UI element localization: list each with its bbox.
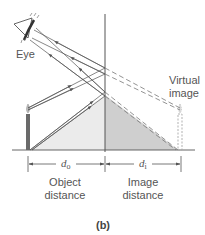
- image-distance-symbol: di: [139, 157, 148, 171]
- virtual-image-label-line2: image: [169, 87, 199, 99]
- virtual-image-label-line1: Virtual: [169, 74, 200, 86]
- object-candle: [26, 104, 30, 150]
- image-triangle: [105, 95, 178, 150]
- image-distance-label-line2: distance: [123, 189, 164, 201]
- dimension-lines: [28, 156, 181, 172]
- image-distance-label-line1: Image: [128, 176, 159, 188]
- object-triangle: [30, 95, 105, 150]
- virtual-image-candle: [178, 104, 182, 150]
- object-distance-symbol: do: [61, 157, 71, 171]
- object-distance-label-line1: Object: [49, 176, 81, 188]
- figure-caption: (b): [96, 219, 110, 231]
- reflected-rays: [30, 28, 105, 96]
- object-distance-label-line2: distance: [45, 189, 86, 201]
- plane-mirror-diagram: Eye Virtual image do di Object distance …: [0, 0, 205, 235]
- eye-label: Eye: [16, 48, 35, 60]
- eye-icon: [14, 13, 39, 43]
